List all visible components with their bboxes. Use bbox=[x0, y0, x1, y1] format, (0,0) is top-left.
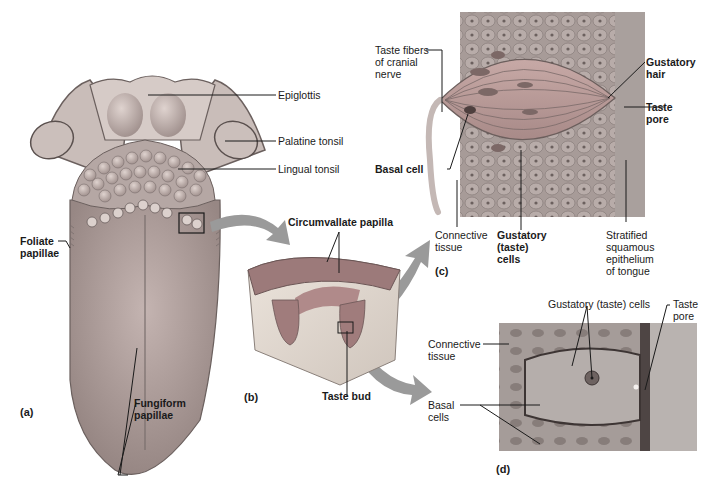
label-gustatory-cells-c: Gustatory (taste) cells bbox=[497, 229, 547, 265]
panel-label-a: (a) bbox=[20, 406, 33, 418]
label-palatine-tonsil: Palatine tonsil bbox=[278, 135, 343, 147]
taste-bud-illustration bbox=[429, 12, 645, 217]
label-gustatory-hair: Gustatory hair bbox=[646, 56, 696, 80]
label-connective-tissue-d: Connective tissue bbox=[428, 338, 481, 362]
label-lingual-tonsil: Lingual tonsil bbox=[278, 163, 339, 175]
label-connective-tissue-c: Connective tissue bbox=[435, 229, 488, 253]
circumvallate-block bbox=[248, 258, 400, 386]
panel-label-d: (d) bbox=[496, 463, 510, 475]
label-fungiform-papillae: Fungiform papillae bbox=[134, 397, 186, 421]
label-basal-cell: Basal cell bbox=[375, 163, 423, 175]
label-gustatory-cells-d: Gustatory (taste) cells bbox=[548, 298, 650, 310]
panel-label-b: (b) bbox=[244, 391, 258, 403]
label-stratified-epithelium: Stratified squamous epithelium of tongue bbox=[606, 229, 654, 277]
taste-bud-micrograph bbox=[499, 323, 697, 451]
label-taste-pore-c: Taste pore bbox=[646, 101, 673, 125]
label-basal-cells: Basal cells bbox=[428, 399, 454, 423]
label-foliate-papillae: Foliate papillae bbox=[20, 235, 59, 259]
panel-label-c: (c) bbox=[435, 265, 448, 277]
label-taste-pore-d: Taste pore bbox=[673, 298, 698, 322]
label-taste-bud: Taste bud bbox=[322, 390, 371, 402]
label-taste-fibers: Taste fibers of cranial nerve bbox=[375, 44, 429, 80]
label-circumvallate-papilla: Circumvallate papilla bbox=[288, 216, 393, 228]
label-epiglottis: Epiglottis bbox=[278, 89, 321, 101]
